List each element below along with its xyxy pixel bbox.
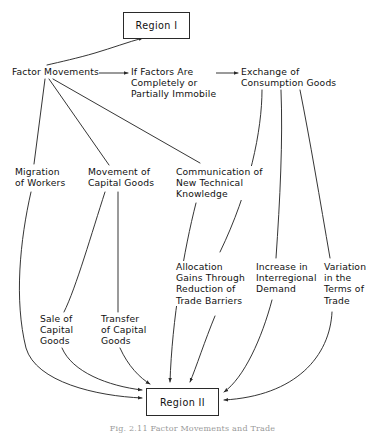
node-transfer-of-capital-goods[interactable]: Transfer of Capital Goods <box>101 313 147 347</box>
node-region-2-label: Region II <box>160 397 205 408</box>
edge-allocation-to-region2 <box>190 316 215 382</box>
figure-caption: Fig. 2.11 Factor Movements and Trade <box>0 424 385 433</box>
node-region-1-label: Region I <box>136 20 178 31</box>
edge-factor-to-movement-capital <box>49 79 109 165</box>
edge-exchange-to-variation <box>300 90 330 258</box>
node-sale-of-capital-goods[interactable]: Sale of Capital Goods <box>40 313 73 347</box>
node-region-2[interactable]: Region II <box>146 388 219 416</box>
node-variation-terms-of-trade[interactable]: Variation in the Terms of Trade <box>324 261 366 306</box>
edge-sale-to-region2 <box>62 348 142 390</box>
node-movement-of-capital-goods[interactable]: Movement of Capital Goods <box>88 166 154 188</box>
edge-movement-to-sale <box>64 192 105 312</box>
edge-increase-to-region2 <box>224 300 272 392</box>
diagram-connectors <box>0 0 385 433</box>
edge-factor-to-region1 <box>47 38 143 65</box>
node-communication-new-technical-knowledge[interactable]: Communication of New Technical Knowledge <box>176 166 263 200</box>
edge-variation-to-region2 <box>224 312 332 400</box>
edge-exchange-to-increase <box>276 90 282 258</box>
edge-transfer-to-region2 <box>120 348 150 384</box>
node-if-factors-immobile[interactable]: If Factors Are Completely or Partially I… <box>131 66 216 100</box>
edge-factor-to-migration <box>34 79 45 164</box>
node-region-1[interactable]: Region I <box>123 12 190 39</box>
node-factor-movements[interactable]: Factor Movements <box>12 66 99 77</box>
edge-migration-to-region2 <box>19 192 142 398</box>
node-migration-of-workers[interactable]: Migration of Workers <box>15 166 65 188</box>
node-allocation-gains[interactable]: Allocation Gains Through Reduction of Tr… <box>176 261 245 306</box>
node-exchange-consumption-goods[interactable]: Exchange of Consumption Goods <box>241 66 336 88</box>
node-increase-interregional-demand[interactable]: Increase in Interregional Demand <box>256 261 317 295</box>
flow-diagram: Region I Factor Movements If Factors Are… <box>0 0 385 433</box>
